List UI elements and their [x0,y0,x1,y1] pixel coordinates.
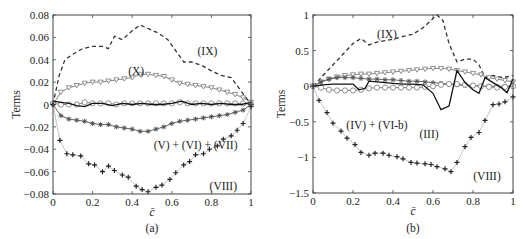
circle-marker-icon [366,86,371,91]
plus-marker-icon [159,183,164,188]
plus-marker-icon [387,153,392,158]
y-tick-label: −0.5 [289,116,309,128]
star-marker-icon [58,113,63,118]
star-marker-icon [66,117,71,122]
plus-marker-icon [415,161,420,166]
plus-marker-icon [449,169,454,174]
star-marker-icon [82,119,87,124]
x-tick-label: 0.6 [165,196,179,208]
panel-caption: (a) [146,222,159,235]
star-marker-icon [122,125,127,130]
plus-marker-icon [120,172,125,177]
plus-marker-icon [469,135,474,140]
circle-marker-icon [382,85,387,90]
x-tick-label: 0.8 [205,196,219,208]
star-marker-icon [74,118,79,123]
star-marker-icon [153,127,158,132]
triangle-marker-icon [169,78,174,82]
series-viii [311,84,516,174]
series-annotation: (IX) [377,28,397,41]
series-annotation: (VIII) [473,170,501,183]
star-marker-icon [169,121,174,126]
plus-marker-icon [325,110,330,115]
circle-marker-icon [209,101,214,106]
star-marker-icon [98,122,103,127]
y-tick-label: 0.02 [30,76,49,88]
circle-marker-icon [334,88,339,93]
circle-marker-icon [430,84,435,89]
series-x [50,72,253,107]
star-marker-icon [351,75,356,80]
triangle-marker-icon [66,86,71,90]
star-marker-icon [90,121,95,126]
y-axis-label: Terms [275,89,287,118]
circle-marker-icon [446,81,451,86]
y-tick-label: −0.02 [24,121,49,133]
plus-marker-icon [409,160,414,165]
series-annotation: (V) + (VI) + (VII) [154,139,238,152]
star-marker-icon [241,108,246,113]
plus-marker-icon [435,164,440,169]
circle-marker-icon [82,100,87,105]
plus-marker-icon [70,152,75,157]
star-marker-icon [415,79,420,84]
triangle-marker-icon [58,90,63,94]
triangle-marker-icon [161,75,166,79]
star-marker-icon [225,112,230,117]
plus-marker-icon [57,138,62,143]
star-marker-icon [130,127,135,132]
plus-marker-icon [477,130,482,135]
y-tick-label: −1.5 [289,187,309,199]
axes-frame [313,15,513,193]
series-annotation: (VIII) [210,180,238,193]
star-marker-icon [193,117,198,122]
triangle-marker-icon [240,96,245,100]
panel-a-plot: 00.20.40.60.81−0.08−0.06−0.04−0.0200.020… [10,9,254,235]
x-tick-label: 0 [50,196,56,208]
y-tick-label: −0.04 [24,143,50,155]
star-marker-icon [319,79,324,84]
x-axis-label: c̄ [410,205,415,217]
circle-marker-icon [390,85,395,90]
y-tick-label: 0.08 [30,9,50,21]
circle-marker-icon [406,85,411,90]
star-marker-icon [335,75,340,80]
plus-marker-icon [463,144,468,149]
plus-marker-icon [423,161,428,166]
x-tick-label: 0.2 [346,195,360,207]
figure: 00.20.40.60.81−0.08−0.06−0.04−0.0200.020… [0,0,523,239]
plus-marker-icon [381,151,386,156]
star-marker-icon [161,124,166,129]
star-marker-icon [423,79,428,84]
star-marker-icon [114,124,119,129]
x-tick-label: 0.8 [466,195,480,207]
circle-marker-icon [486,84,491,89]
star-marker-icon [146,129,151,134]
x-tick-label: 1 [510,195,516,207]
y-tick-label: 0.06 [30,31,50,43]
panel-b-plot: 00.20.40.60.81−1.5−1−0.500.51c̄Terms(IX)… [275,9,516,235]
plus-marker-icon [64,151,69,156]
panel-caption: (b) [406,222,420,235]
series-ix [53,25,251,104]
series-annotation: (III) [419,128,438,141]
star-marker-icon [327,77,332,82]
plus-marker-icon [429,162,434,167]
y-tick-label: 0.5 [295,45,309,57]
star-marker-icon [185,118,190,123]
plus-marker-icon [503,99,508,104]
y-axis-label: Terms [10,90,22,119]
star-marker-icon [407,79,412,84]
series-annotation: (X) [128,65,144,78]
star-marker-icon [209,114,214,119]
x-tick-label: 0.2 [86,196,100,208]
y-tick-label: 0.04 [30,54,50,66]
y-tick-label: −0.08 [24,188,50,200]
star-marker-icon [233,110,238,115]
circle-marker-icon [414,85,419,90]
y-tick-label: 1 [304,9,310,21]
y-tick-label: 0 [304,80,310,92]
plus-marker-icon [140,187,145,192]
plus-marker-icon [491,102,496,107]
star-marker-icon [343,75,348,80]
